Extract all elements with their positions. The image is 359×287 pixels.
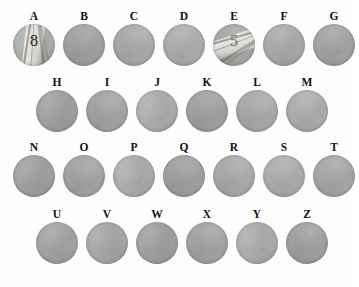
disc-surface — [113, 155, 155, 197]
specimen-label-h: H — [53, 76, 62, 89]
specimen-disc-x[interactable] — [186, 222, 228, 264]
specimen-speck — [304, 231, 308, 235]
specimen-speck — [152, 235, 153, 236]
specimen-disc-n[interactable] — [13, 155, 55, 197]
specimen-speck — [244, 100, 246, 102]
specimen-cell-v[interactable]: V — [86, 208, 128, 264]
specimen-speck — [137, 181, 140, 184]
specimen-speck — [276, 180, 279, 183]
specimen-cell-f[interactable]: F — [263, 10, 305, 66]
specimen-speck — [104, 103, 105, 104]
specimen-disc-h[interactable] — [36, 90, 78, 132]
specimen-label-x: X — [203, 208, 211, 221]
specimen-streak — [36, 24, 46, 66]
specimen-speck — [176, 49, 179, 52]
specimen-label-r: R — [230, 141, 238, 154]
specimen-speck — [283, 59, 284, 60]
specimen-cell-d[interactable]: D — [163, 10, 205, 66]
specimen-disc-j[interactable] — [136, 90, 178, 132]
specimen-cell-t[interactable]: T — [313, 141, 355, 197]
specimen-speck — [81, 168, 82, 169]
specimen-cell-l[interactable]: L — [236, 76, 278, 132]
specimen-cell-w[interactable]: W — [136, 208, 178, 264]
specimen-label-f: F — [280, 10, 287, 23]
specimen-speck — [334, 187, 335, 188]
specimen-disc-u[interactable] — [36, 222, 78, 264]
specimen-speck — [255, 111, 257, 113]
specimen-row-1: A8BCDE5FG — [13, 10, 355, 66]
specimen-streak — [38, 24, 52, 66]
specimen-disc-o[interactable] — [63, 155, 105, 197]
specimen-cell-j[interactable]: J — [136, 76, 178, 132]
specimen-disc-y[interactable] — [236, 222, 278, 264]
specimen-disc-r[interactable] — [213, 155, 255, 197]
specimen-cell-e[interactable]: E5 — [213, 10, 255, 66]
specimen-speck — [160, 254, 161, 255]
disc-surface — [209, 151, 259, 201]
specimen-cell-c[interactable]: C — [113, 10, 155, 66]
specimen-speck — [232, 176, 234, 178]
specimen-cell-n[interactable]: N — [13, 141, 55, 197]
specimen-disc-i[interactable] — [86, 90, 128, 132]
disc-surface — [206, 17, 262, 73]
specimen-speck — [216, 246, 217, 247]
specimen-disc-f[interactable] — [263, 24, 305, 66]
specimen-speck — [247, 231, 250, 234]
specimen-speck — [321, 114, 324, 117]
specimen-speck — [29, 168, 30, 169]
specimen-label-j: J — [154, 76, 160, 89]
specimen-cell-q[interactable]: Q — [163, 141, 205, 197]
specimen-disc-v[interactable] — [86, 222, 128, 264]
specimen-cell-y[interactable]: Y — [236, 208, 278, 264]
specimen-disc-s[interactable] — [263, 155, 305, 197]
specimen-disc-p[interactable] — [113, 155, 155, 197]
specimen-disc-z[interactable] — [286, 222, 328, 264]
specimen-disc-t[interactable] — [313, 155, 355, 197]
disc-surface — [82, 86, 132, 136]
specimen-disc-g[interactable] — [313, 24, 355, 66]
specimen-disc-c[interactable] — [113, 24, 155, 66]
disc-surface — [32, 86, 82, 136]
specimen-cell-s[interactable]: S — [263, 141, 305, 197]
specimen-disc-d[interactable] — [163, 24, 205, 66]
specimen-cell-g[interactable]: G — [313, 10, 355, 66]
specimen-cell-x[interactable]: X — [186, 208, 228, 264]
specimen-disc-e[interactable]: 5 — [213, 24, 255, 66]
specimen-disc-q[interactable] — [163, 155, 205, 197]
disc-surface — [9, 151, 59, 201]
disc-surface — [305, 16, 359, 75]
specimen-label-a: A — [30, 10, 38, 23]
specimen-label-t: T — [330, 141, 338, 154]
specimen-cell-r[interactable]: R — [213, 141, 255, 197]
specimen-cell-h[interactable]: H — [36, 76, 78, 132]
specimen-cell-b[interactable]: B — [63, 10, 105, 66]
specimen-disc-k[interactable] — [186, 90, 228, 132]
specimen-cell-z[interactable]: Z — [286, 208, 328, 264]
specimen-streak — [206, 29, 259, 47]
specimen-cell-m[interactable]: M — [286, 76, 328, 132]
specimen-speck — [53, 239, 56, 242]
specimen-cell-i[interactable]: I — [86, 76, 128, 132]
specimen-speck — [115, 239, 117, 241]
specimen-cell-p[interactable]: P — [113, 141, 155, 197]
specimen-disc-l[interactable] — [236, 90, 278, 132]
disc-surface — [136, 90, 178, 132]
specimen-disc-a[interactable]: 8 — [13, 24, 55, 66]
specimen-cell-k[interactable]: K — [186, 76, 228, 132]
specimen-label-s: S — [281, 141, 287, 154]
specimen-disc-w[interactable] — [136, 222, 178, 264]
specimen-label-q: Q — [180, 141, 189, 154]
specimen-disc-m[interactable] — [286, 90, 328, 132]
specimen-label-k: K — [203, 76, 212, 89]
specimen-cell-a[interactable]: A8 — [13, 10, 55, 66]
specimen-pale-band — [21, 24, 46, 66]
specimen-label-z: Z — [303, 208, 311, 221]
specimen-disc-b[interactable] — [63, 24, 105, 66]
specimen-cell-o[interactable]: O — [63, 141, 105, 197]
specimen-speck — [121, 34, 123, 36]
specimen-speck — [147, 99, 150, 102]
disc-surface — [236, 222, 278, 264]
specimen-speck — [294, 250, 298, 254]
specimen-speck — [221, 165, 223, 167]
specimen-cell-u[interactable]: U — [36, 208, 78, 264]
